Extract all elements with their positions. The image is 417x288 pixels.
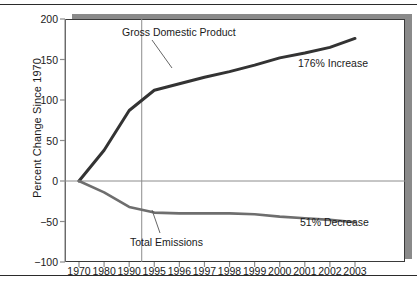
x-tick-label: 1999 (243, 265, 266, 277)
y-tick-label: 100 (18, 94, 58, 106)
x-tick-label: 1997 (193, 265, 216, 277)
x-tick-label: 1990 (117, 265, 140, 277)
x-tick-label: 1998 (218, 265, 241, 277)
x-tick-label: 1980 (92, 265, 115, 277)
chart-svg (0, 0, 417, 288)
y-tick-label: 200 (18, 13, 58, 25)
y-tick-label: −100 (18, 256, 58, 268)
x-tick-label: 1996 (168, 265, 191, 277)
x-tick-label: 1995 (143, 265, 166, 277)
figure-container: Percent Change Since 1970 200150100500−5… (0, 0, 417, 288)
x-tick-label: 1970 (67, 265, 90, 277)
annotation-emissions-decrease: 51% Decrease (300, 216, 369, 228)
x-tick-label: 2001 (293, 265, 316, 277)
leader-lines-group (152, 40, 172, 233)
y-tick-label: 0 (18, 175, 58, 187)
y-tick-label: −50 (18, 216, 58, 228)
x-tick-label: 2003 (343, 265, 366, 277)
x-tick-label: 2002 (318, 265, 341, 277)
y-tick-label: 50 (18, 135, 58, 147)
annotation-gdp-increase: 176% Increase (298, 57, 368, 69)
y-tick-label: 150 (18, 54, 58, 66)
annotation-emissions-label: Total Emissions (130, 236, 203, 248)
x-tick-label: 2000 (268, 265, 291, 277)
annotation-gdp-label: Gross Domestic Product (122, 26, 236, 38)
